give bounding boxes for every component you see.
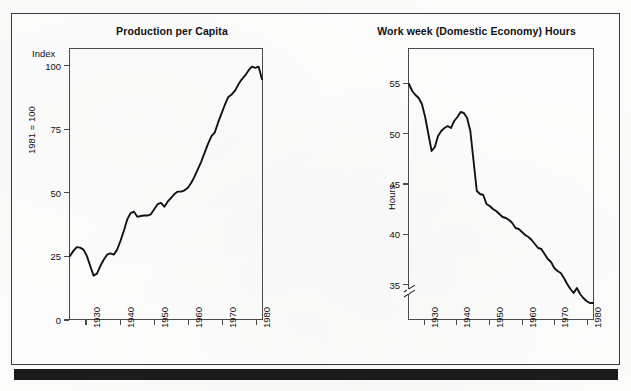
- y-axis-header-index: Index: [32, 48, 55, 59]
- y-tick-label: 50: [33, 187, 61, 198]
- y-tick-label: 25: [33, 251, 61, 262]
- chart-title-production: Production per Capita: [12, 25, 332, 37]
- x-tick-label: 1970: [559, 307, 570, 328]
- y-tick-mark: [403, 183, 408, 184]
- x-tick-mark: [256, 320, 257, 325]
- x-tick-mark: [85, 320, 86, 325]
- x-tick-mark: [489, 320, 490, 325]
- production-line-plot: [70, 49, 262, 319]
- y-tick-mark: [403, 133, 408, 134]
- x-tick-mark: [222, 320, 223, 325]
- data-line: [70, 67, 262, 276]
- y-tick-mark: [403, 83, 408, 84]
- axis-break-gap: [407, 289, 410, 294]
- y-tick-label: 35: [372, 279, 400, 290]
- y-tick-label: 40: [372, 229, 400, 240]
- y-tick-label: 75: [33, 124, 61, 135]
- y-tick-label: 100: [33, 60, 61, 71]
- chart-work-week-hours: Work week (Domestic Economy) Hours Hours…: [332, 14, 621, 366]
- x-tick-label: 1930: [429, 307, 440, 328]
- x-tick-label: 1950: [159, 307, 170, 328]
- y-tick-label: 0: [33, 315, 61, 326]
- y-tick-mark: [403, 284, 408, 285]
- x-tick-mark: [587, 320, 588, 325]
- data-line: [409, 84, 593, 303]
- plot-area-production: [69, 48, 263, 320]
- y-tick-mark: [403, 234, 408, 235]
- document-page: Production per Capita Index 1981 = 100 0…: [0, 0, 631, 391]
- chart-production-per-capita: Production per Capita Index 1981 = 100 0…: [12, 14, 332, 366]
- y-tick-mark: [64, 65, 69, 66]
- x-tick-mark: [522, 320, 523, 325]
- x-tick-label: 1930: [91, 307, 102, 328]
- x-tick-label: 1940: [461, 307, 472, 328]
- x-tick-label: 1970: [227, 307, 238, 328]
- work-week-line-plot: [409, 49, 593, 319]
- plot-area-work-week: [408, 48, 594, 320]
- x-tick-label: 1980: [261, 307, 272, 328]
- x-tick-mark: [554, 320, 555, 325]
- bottom-rule: [14, 369, 618, 380]
- y-tick-mark: [64, 192, 69, 193]
- x-tick-mark: [456, 320, 457, 325]
- x-tick-mark: [154, 320, 155, 325]
- y-tick-label: 45: [372, 179, 400, 190]
- x-tick-mark: [120, 320, 121, 325]
- x-tick-label: 1960: [193, 307, 204, 328]
- y-tick-label: 50: [372, 128, 400, 139]
- x-tick-label: 1980: [592, 307, 603, 328]
- figure-frame: Production per Capita Index 1981 = 100 0…: [11, 13, 620, 365]
- chart-title-work-week: Work week (Domestic Economy) Hours: [332, 25, 621, 37]
- y-tick-label: 55: [372, 78, 400, 89]
- y-tick-mark: [64, 319, 69, 320]
- x-tick-label: 1960: [527, 307, 538, 328]
- x-tick-label: 1950: [494, 307, 505, 328]
- x-tick-mark: [188, 320, 189, 325]
- x-tick-label: 1940: [125, 307, 136, 328]
- y-tick-mark: [64, 129, 69, 130]
- x-tick-mark: [424, 320, 425, 325]
- y-tick-mark: [64, 256, 69, 257]
